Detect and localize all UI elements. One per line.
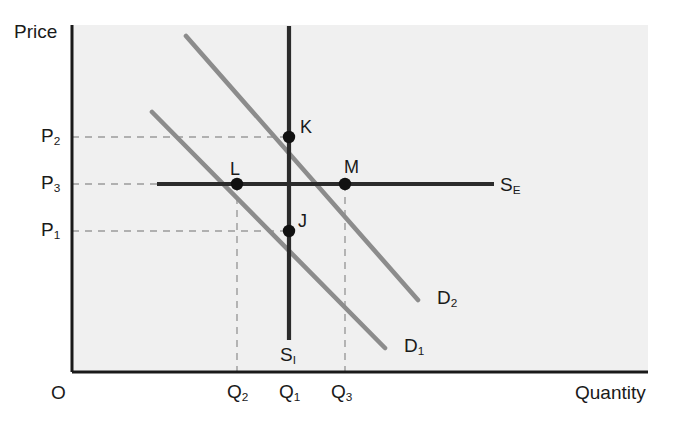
figure-canvas: Price Quantity O P2 P3 P1 Q2 Q1 Q3 D2 D1… (0, 0, 674, 428)
quantity-tick-q2: Q2 (227, 382, 248, 403)
quantity-tick-q2-base: Q (227, 381, 242, 402)
point-label-j: J (298, 212, 307, 230)
demand-curve-d2 (186, 36, 418, 300)
quantity-tick-q1-base: Q (279, 381, 294, 402)
point-label-k: K (300, 118, 312, 136)
curve-label-si-sub: I (293, 353, 296, 366)
curve-label-d2-base: D (437, 287, 451, 308)
y-axis-title: Price (14, 22, 57, 41)
curve-label-d2-sub: 2 (451, 296, 458, 309)
quantity-tick-q2-sub: 2 (242, 390, 249, 403)
curve-label-d1-sub: 1 (418, 344, 425, 357)
demand-curve-d1 (152, 112, 385, 348)
curve-label-d1: D1 (404, 336, 424, 357)
curve-label-d2: D2 (437, 288, 457, 309)
curve-label-d1-base: D (404, 335, 418, 356)
curve-label-si: SI (280, 345, 296, 366)
quantity-tick-q3-base: Q (331, 381, 346, 402)
price-tick-p3: P3 (41, 173, 60, 194)
origin-label: O (51, 383, 66, 402)
price-tick-p2-base: P (41, 125, 54, 146)
point-m-marker (339, 178, 351, 190)
point-label-l: L (230, 160, 240, 178)
price-tick-p2: P2 (41, 126, 60, 147)
curve-label-se-base: S (500, 174, 513, 195)
point-j-marker (283, 225, 295, 237)
curve-label-si-base: S (280, 344, 293, 365)
curve-label-se: SE (500, 175, 521, 196)
supply-demand-figure (0, 0, 674, 428)
price-tick-p2-sub: 2 (54, 134, 61, 147)
demand-curves (152, 36, 418, 348)
price-tick-p1-base: P (41, 219, 54, 240)
quantity-tick-q1: Q1 (279, 382, 300, 403)
quantity-tick-q1-sub: 1 (294, 390, 301, 403)
point-k-marker (283, 131, 295, 143)
point-label-m: M (344, 158, 359, 176)
price-tick-p1-sub: 1 (54, 228, 61, 241)
price-tick-p3-base: P (41, 172, 54, 193)
price-tick-p1: P1 (41, 220, 60, 241)
x-axis-title: Quantity (575, 383, 646, 402)
price-tick-p3-sub: 3 (54, 181, 61, 194)
quantity-tick-q3-sub: 3 (346, 390, 353, 403)
curve-label-se-sub: E (513, 183, 521, 196)
point-l-marker (231, 178, 243, 190)
quantity-tick-q3: Q3 (331, 382, 352, 403)
